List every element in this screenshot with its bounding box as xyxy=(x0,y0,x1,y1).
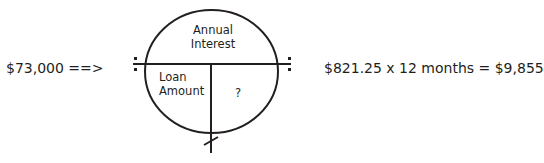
loan-amount-line-2: Amount xyxy=(159,84,204,98)
annual-interest-label: Annual Interest xyxy=(188,23,238,51)
annual-interest-line-2: Interest xyxy=(188,37,238,51)
unknown-rate-label: ? xyxy=(235,86,241,100)
annual-interest-line-1: Annual xyxy=(188,23,238,37)
loan-amount-line-1: Loan xyxy=(159,70,204,84)
loan-amount-label: Loan Amount xyxy=(159,70,204,98)
loan-input-value: $73,000 ==> xyxy=(6,60,104,76)
annual-interest-equation: $821.25 x 12 months = $9,855 xyxy=(324,60,544,76)
